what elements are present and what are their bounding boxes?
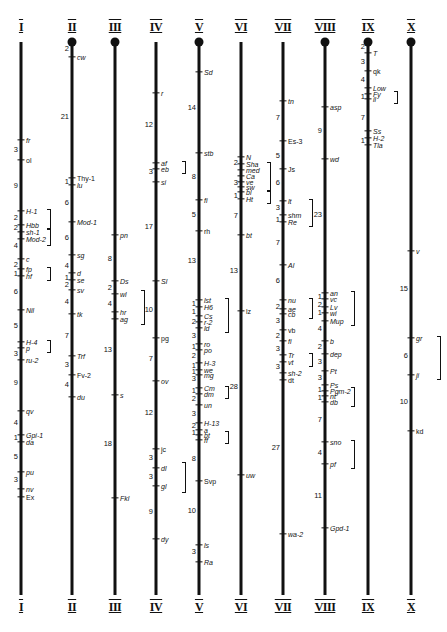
chromosome-IV — [155, 42, 158, 595]
gene-label: Re — [288, 219, 297, 226]
gene-label: hr — [120, 309, 126, 316]
distance-value: 1 — [234, 192, 238, 200]
distance-value: 3 — [14, 350, 18, 358]
gene-label: pn — [120, 232, 128, 239]
locus-tick — [112, 280, 119, 281]
locus-tick — [196, 374, 203, 375]
distance-value: 8 — [192, 173, 196, 181]
gene-label: db — [330, 399, 338, 406]
gene-label: cw — [77, 54, 86, 61]
gene-label: c — [26, 256, 30, 263]
gene-label: fr — [26, 137, 30, 144]
distance-value: 10 — [145, 306, 153, 314]
cluster-bracket — [309, 353, 313, 367]
chromosome-V — [198, 42, 201, 595]
gene-label: ag — [120, 316, 128, 323]
distance-value: 23 — [314, 211, 322, 219]
locus-tick — [196, 71, 203, 72]
distance-value: 4 — [65, 381, 69, 389]
locus-tick — [322, 298, 329, 299]
locus-tick — [238, 474, 245, 475]
gene-label: Sl — [161, 278, 167, 285]
distance-value: 7 — [361, 114, 365, 122]
gene-label: uw — [246, 472, 255, 479]
locus-tick — [322, 292, 329, 293]
distance-value: 5 — [192, 211, 196, 219]
locus-tick — [196, 343, 203, 344]
gene-label: Sd — [204, 69, 213, 76]
distance-value: 21 — [61, 113, 69, 121]
distance-value: 3 — [192, 332, 196, 340]
locus-tick — [280, 340, 287, 341]
locus-tick — [322, 395, 329, 396]
distance-value: 3 — [192, 548, 196, 556]
gene-label: kd — [416, 428, 423, 435]
locus-tick — [153, 467, 160, 468]
locus-tick — [196, 369, 203, 370]
gene-label: eb — [161, 166, 169, 173]
distance-value: 3 — [14, 146, 18, 154]
locus-tick — [69, 254, 76, 255]
cluster-bracket — [225, 431, 229, 444]
chromosome-I — [20, 42, 23, 595]
gene-label: dt — [288, 377, 294, 384]
distance-value: 2 — [65, 281, 69, 289]
cluster-bracket — [47, 229, 51, 246]
distance-value: 3 — [318, 374, 322, 382]
distance-value: 7 — [234, 212, 238, 220]
distance-value: 3 — [149, 473, 153, 481]
distance-value: 4 — [361, 76, 365, 84]
gene-label: se — [77, 277, 84, 284]
chromosome-label-bottom: V — [195, 600, 203, 615]
gene-label: pg — [161, 335, 169, 342]
distance-value: 1 — [276, 216, 280, 224]
locus-tick — [280, 308, 287, 309]
locus-tick — [196, 544, 203, 545]
locus-tick — [69, 221, 76, 222]
chromosome-X — [410, 42, 413, 595]
distance-value: 11 — [314, 492, 322, 500]
distance-value: 15 — [400, 285, 408, 293]
distance-value: 13 — [188, 257, 196, 265]
locus-tick — [69, 313, 76, 314]
gene-label: H-13 — [204, 420, 219, 427]
locus-tick — [196, 230, 203, 231]
gene-label: Hbb — [26, 222, 39, 229]
gene-label: si — [161, 179, 166, 186]
gene-label: Al — [288, 262, 294, 269]
gene-label: dy — [161, 536, 168, 543]
cluster-bracket — [267, 190, 271, 204]
gene-label: Thy-1 — [77, 175, 95, 182]
centromere-dot — [321, 38, 330, 47]
distance-value: 3 — [192, 375, 196, 383]
distance-value: 13 — [104, 346, 112, 354]
distance-value: 1 — [192, 308, 196, 316]
distance-value: 6 — [276, 179, 280, 187]
gene-label: jc — [161, 446, 166, 453]
gene-label: H-3 — [204, 360, 215, 367]
gene-label: ru-2 — [26, 357, 38, 364]
locus-tick — [18, 441, 25, 442]
cluster-bracket — [394, 91, 398, 104]
distance-value: 3 — [65, 361, 69, 369]
locus-tick — [196, 152, 203, 153]
gene-label: Mod-1 — [77, 219, 97, 226]
locus-tick — [18, 309, 25, 310]
locus-tick — [153, 337, 160, 338]
locus-tick — [238, 175, 245, 176]
gene-label: p — [26, 345, 30, 352]
chromosome-label-bottom: VI — [235, 600, 247, 615]
chromosome-II — [71, 42, 74, 595]
locus-tick — [408, 250, 415, 251]
locus-tick — [196, 315, 203, 316]
distance-value: 14 — [188, 104, 196, 112]
gene-label: Js — [288, 166, 295, 173]
gene-label: sv — [77, 287, 84, 294]
chromosome-label-top: VIII — [315, 20, 336, 35]
centromere-dot — [195, 38, 204, 47]
distance-value: 3 — [149, 454, 153, 462]
distance-value: 4 — [318, 449, 322, 457]
locus-tick — [112, 311, 119, 312]
locus-tick — [280, 221, 287, 222]
gene-label: ov — [161, 378, 168, 385]
